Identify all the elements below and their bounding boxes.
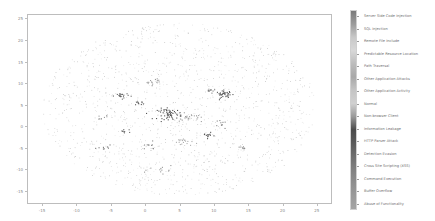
y-tick-mark: [25, 191, 27, 192]
colorbar-label: Predictable Resource Location: [364, 52, 418, 56]
x-tick-mark: [317, 204, 318, 206]
y-tick-label: 20: [18, 37, 23, 42]
colorbar-label: Server Side Code Injection: [364, 14, 412, 18]
x-tick-label: 5: [178, 208, 181, 213]
y-tick-label: -5: [19, 145, 23, 150]
colorbar-label: Information Leakage: [364, 127, 401, 131]
colorbar-tick: [357, 166, 359, 167]
x-tick-label: 10: [211, 208, 216, 213]
x-tick-label: 15: [246, 208, 251, 213]
x-tick-mark: [76, 204, 77, 206]
y-tick-mark: [25, 169, 27, 170]
colorbar-tick: [357, 129, 359, 130]
colorbar-label: Cross Site Scripting (XSS): [364, 164, 410, 168]
y-tick-label: -15: [16, 189, 23, 194]
colorbar-tick: [357, 79, 359, 80]
colorbar: [350, 10, 357, 210]
colorbar-label: Detection Evasion: [364, 152, 397, 156]
x-tick-mark: [42, 204, 43, 206]
y-tick-label: 10: [18, 81, 23, 86]
colorbar-label: Path Traversal: [364, 64, 389, 68]
y-tick-mark: [25, 126, 27, 127]
y-tick-mark: [25, 62, 27, 63]
colorbar-label: HTTP Parser Attack: [364, 139, 398, 143]
colorbar-label: SQL Injection: [364, 27, 388, 31]
x-tick-label: 0: [144, 208, 147, 213]
x-tick-label: 20: [280, 208, 285, 213]
x-tick-mark: [180, 204, 181, 206]
y-tick-label: 0: [20, 124, 23, 129]
x-tick-mark: [145, 204, 146, 206]
colorbar-tick: [357, 191, 359, 192]
y-tick-label: -10: [16, 167, 23, 172]
x-tick-label: -15: [39, 208, 46, 213]
scatter-points: [27, 14, 332, 204]
colorbar-label: Abuse of Functionality: [364, 202, 404, 206]
colorbar-label: Command Execution: [364, 177, 401, 181]
y-tick-label: 15: [18, 59, 23, 64]
colorbar-tick: [357, 116, 359, 117]
colorbar-label: Other Application Activity: [364, 89, 410, 93]
colorbar-label: Normal: [364, 102, 377, 106]
x-tick-mark: [214, 204, 215, 206]
y-tick-mark: [25, 18, 27, 19]
x-tick-label: -10: [73, 208, 80, 213]
colorbar-label: Other Application Attacks: [364, 77, 410, 81]
y-tick-mark: [25, 148, 27, 149]
colorbar-tick: [357, 16, 359, 17]
x-tick-mark: [283, 204, 284, 206]
y-tick-label: 5: [20, 102, 23, 107]
colorbar-tick: [357, 66, 359, 67]
x-tick-label: 25: [314, 208, 319, 213]
colorbar-label: Non-browser Client: [364, 114, 398, 118]
colorbar-tick: [357, 141, 359, 142]
y-tick-mark: [25, 83, 27, 84]
y-tick-mark: [25, 105, 27, 106]
x-tick-mark: [248, 204, 249, 206]
colorbar-tick: [357, 204, 359, 205]
colorbar-tick: [357, 91, 359, 92]
y-tick-label: 25: [18, 16, 23, 21]
colorbar-tick: [357, 179, 359, 180]
x-tick-mark: [111, 204, 112, 206]
y-tick-mark: [25, 40, 27, 41]
colorbar-label: Buffer Overflow: [364, 189, 392, 193]
colorbar-tick: [357, 41, 359, 42]
colorbar-tick: [357, 54, 359, 55]
colorbar-label: Remote File Include: [364, 39, 399, 43]
x-tick-label: -5: [109, 208, 113, 213]
colorbar-tick: [357, 104, 359, 105]
colorbar-tick: [357, 29, 359, 30]
colorbar-tick: [357, 154, 359, 155]
